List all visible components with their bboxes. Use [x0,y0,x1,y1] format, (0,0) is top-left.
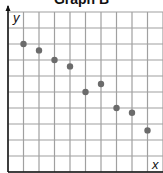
data-point [129,110,135,116]
data-point [113,105,119,111]
data-point [144,127,150,133]
data-point [98,81,104,87]
data-point [82,89,88,95]
data-point [20,41,26,47]
data-point [36,47,42,53]
x-axis-label: x [151,157,159,172]
data-point [51,57,57,63]
y-axis-arrow-icon [6,5,11,11]
scatter-plot: yx [0,0,163,173]
data-point [67,63,73,69]
